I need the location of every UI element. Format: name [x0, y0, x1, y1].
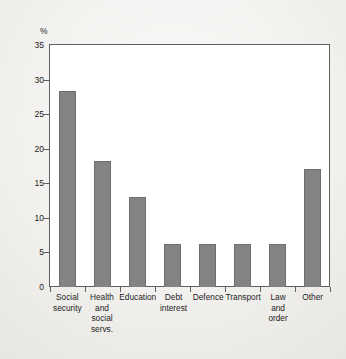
x-axis-label-line: Health	[85, 292, 120, 303]
x-axis-label: Other	[295, 292, 330, 334]
x-axis-tick-mark	[330, 287, 331, 292]
bar-slot	[260, 45, 295, 287]
x-axis-tick-mark	[190, 287, 191, 292]
bar[interactable]	[269, 244, 286, 287]
bar-slot	[120, 45, 155, 287]
bar[interactable]	[304, 169, 321, 287]
x-axis-tick-mark	[155, 287, 156, 292]
x-axis-label-line: social	[85, 313, 120, 324]
x-axis-label: Lawandorder	[261, 292, 296, 334]
x-axis-label-line: interest	[156, 303, 191, 314]
bars-container	[50, 45, 330, 287]
bar-slot	[225, 45, 260, 287]
x-axis-label-line: Transport	[226, 292, 261, 303]
bar[interactable]	[94, 161, 111, 287]
x-axis-tick-mark	[120, 287, 121, 292]
bar[interactable]	[129, 197, 146, 287]
x-axis-tick-mark	[260, 287, 261, 292]
bar-slot	[190, 45, 225, 287]
x-axis-label: Defence	[191, 292, 226, 334]
x-axis-label-line: security	[50, 303, 85, 314]
x-axis-labels: SocialsecurityHealthandsocialservs.Educa…	[50, 292, 330, 334]
bar-chart: % 05101520253035 SocialsecurityHealthand…	[0, 0, 346, 359]
x-axis-label-line: Law	[261, 292, 296, 303]
x-axis-label-line: servs.	[85, 324, 120, 335]
bar[interactable]	[199, 244, 216, 287]
y-axis-tick-label: 35	[7, 40, 49, 50]
x-axis-label-line: and	[85, 303, 120, 314]
bar[interactable]	[234, 244, 251, 287]
bar-slot	[50, 45, 85, 287]
x-axis-label-line: Other	[295, 292, 330, 303]
x-axis-label: Healthandsocialservs.	[85, 292, 120, 334]
x-axis-tick-mark	[85, 287, 86, 292]
bar-slot	[155, 45, 190, 287]
x-axis-tick-mark	[50, 287, 51, 292]
bar[interactable]	[164, 244, 181, 287]
x-axis-tick-mark	[225, 287, 226, 292]
y-axis-tick-label: 0	[7, 282, 49, 292]
chart-figure: % 05101520253035 SocialsecurityHealthand…	[0, 0, 346, 359]
bar-slot	[85, 45, 120, 287]
x-axis-label: Transport	[226, 292, 261, 334]
x-axis-label-line: order	[261, 313, 296, 324]
x-axis-tick-mark	[295, 287, 296, 292]
x-axis-label-line: Social	[50, 292, 85, 303]
x-axis-label: Socialsecurity	[50, 292, 85, 334]
x-axis-label: Education	[119, 292, 156, 334]
x-axis-label-line: and	[261, 303, 296, 314]
y-axis: 05101520253035	[0, 0, 49, 359]
x-axis-label-line: Defence	[191, 292, 226, 303]
bar[interactable]	[59, 91, 76, 287]
x-axis-label: Debtinterest	[156, 292, 191, 334]
bar-slot	[295, 45, 330, 287]
x-axis-label-line: Debt	[156, 292, 191, 303]
x-axis-label-line: Education	[119, 292, 156, 303]
